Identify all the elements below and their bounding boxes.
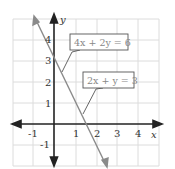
x-tick: 1 (73, 128, 79, 139)
y-tick: 1 (45, 98, 51, 109)
graph: -1 1 2 3 4 x 4 3 2 1 -1 y 4x + 2y = 6 2x… (0, 0, 175, 169)
y-tick: 2 (45, 77, 51, 88)
equation-label-2: 2x + y = 3 (87, 75, 138, 86)
x-tick: 4 (135, 128, 141, 139)
y-axis-label: y (59, 14, 66, 25)
x-axis-label: x (151, 129, 157, 140)
y-tick: 3 (45, 55, 51, 66)
x-axis-right-arrow-icon (153, 121, 162, 128)
callout-eq1: 4x + 2y = 6 (62, 34, 131, 72)
y-tick: -1 (40, 139, 50, 150)
y-axis-up-arrow-icon (51, 14, 58, 23)
x-tick: 3 (114, 128, 120, 139)
x-tick: -1 (28, 128, 38, 139)
equation-label-1: 4x + 2y = 6 (74, 37, 131, 48)
y-axis-down-arrow-icon (51, 157, 58, 166)
x-tick: 2 (94, 128, 100, 139)
y-tick: 4 (45, 34, 51, 45)
callout-eq2: 2x + y = 3 (83, 72, 138, 114)
